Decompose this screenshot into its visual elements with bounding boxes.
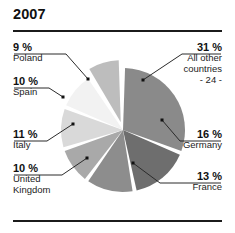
callout-italy: 11 % Italy xyxy=(13,128,37,151)
leader-dot-all-other xyxy=(142,79,145,82)
leader-dot-germany xyxy=(161,119,164,122)
callout-spain: 10 % Spain xyxy=(13,75,38,98)
callout-united-kingdom: 10 % United Kingdom xyxy=(13,162,51,196)
callout-all-other-countries: 31 % All other countries - 24 - xyxy=(183,41,222,85)
callout-poland-label: Poland xyxy=(13,53,43,64)
callout-all-other-label-line2: countries xyxy=(183,64,222,75)
leader-dot-france xyxy=(132,162,135,165)
callout-poland: 9 % Poland xyxy=(13,41,43,64)
callout-italy-label: Italy xyxy=(13,140,37,151)
callout-all-other-count: - 24 - xyxy=(183,75,222,86)
leader-dot-uk xyxy=(86,157,89,160)
pie-graphic xyxy=(0,0,235,233)
footer-divider xyxy=(13,220,222,222)
callout-germany-label: Germany xyxy=(183,140,222,151)
callout-spain-label: Spain xyxy=(13,87,38,98)
leader-dot-poland xyxy=(87,78,90,81)
leader-dot-italy xyxy=(72,123,75,126)
callout-germany: 16 % Germany xyxy=(183,128,222,151)
callout-france-label: France xyxy=(192,182,222,193)
pie-chart-figure: 2007 xyxy=(0,0,235,233)
callout-uk-label-line2: Kingdom xyxy=(13,185,51,196)
leader-dot-spain xyxy=(62,96,65,99)
pie-slices xyxy=(61,60,185,192)
callout-france: 13 % France xyxy=(192,170,222,193)
